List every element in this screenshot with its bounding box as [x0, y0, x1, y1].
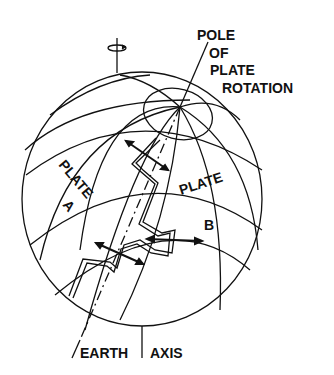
svg-text:AXIS: AXIS: [150, 345, 183, 361]
pole-circle: [138, 81, 219, 147]
meridian-line: [180, 107, 221, 310]
svg-text:POLE: POLE: [197, 27, 235, 43]
svg-text:PLATE: PLATE: [56, 157, 97, 202]
svg-text:B: B: [204, 217, 214, 233]
double-arrow-icon: [126, 141, 168, 170]
plate-a-label: PLATE A: [56, 157, 97, 215]
svg-text:EARTH: EARTH: [80, 345, 128, 361]
meridian-line: [180, 103, 240, 120]
svg-text:A: A: [60, 197, 79, 215]
earth-axis-label: EARTH AXIS: [80, 345, 183, 361]
latitude-line: [30, 193, 262, 245]
meridian-line: [40, 107, 180, 260]
svg-text:PLATE: PLATE: [210, 62, 255, 78]
globe-outline: [22, 72, 262, 326]
svg-text:ROTATION: ROTATION: [222, 80, 293, 96]
latitude-line: [50, 75, 150, 115]
meridian-line: [120, 107, 180, 320]
plate-tectonics-diagram: POLE OF PLATE ROTATION PLATE A PLATE B E…: [0, 0, 334, 375]
earth-axis-line-lower: [72, 340, 80, 358]
meridian-line: [80, 107, 180, 250]
svg-text:OF: OF: [209, 45, 229, 61]
pole-label: POLE OF PLATE ROTATION: [197, 27, 293, 96]
pole-leader-line: [180, 42, 208, 107]
svg-text:PLATE: PLATE: [177, 169, 225, 198]
